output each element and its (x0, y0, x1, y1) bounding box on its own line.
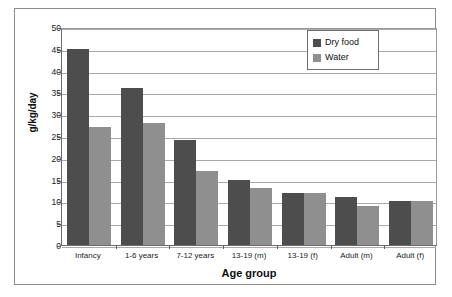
x-axis-tick-mark (223, 245, 224, 249)
bar-water (196, 171, 218, 245)
x-axis-tick-mark (331, 245, 332, 249)
bar-water (357, 206, 379, 245)
x-axis-tick-mark (277, 245, 278, 249)
bar-dry-food (389, 201, 411, 245)
y-axis-title: g/kg/day (27, 68, 38, 158)
x-axis-tick-label: 13-19 (m) (232, 252, 267, 260)
legend-label: Dry food (325, 38, 359, 47)
bar-dry-food (228, 180, 250, 245)
bar-dry-food (282, 193, 304, 245)
bar-group (116, 29, 170, 245)
bar-group (223, 29, 277, 245)
x-axis-tick-label: 1-6 years (125, 252, 158, 260)
x-axis-tick-label: Adult (f) (396, 252, 424, 260)
gridline (62, 247, 436, 248)
bar-dry-food (335, 197, 357, 245)
x-axis-tick-label: Adult (m) (340, 252, 372, 260)
x-axis-tick-labels: Infancy1-6 years7-12 years13-19 (m)13-19… (61, 252, 437, 266)
bar-water (89, 127, 111, 245)
bar-group (62, 29, 116, 245)
legend-swatch-dry (313, 39, 321, 47)
bar-water (411, 201, 433, 245)
y-axis-tick-mark (57, 246, 61, 247)
x-axis-tick-mark (169, 245, 170, 249)
x-axis-tick-mark (384, 245, 385, 249)
bar-water (304, 193, 326, 245)
legend-item: Dry food (313, 35, 373, 50)
bar-group (384, 29, 438, 245)
bar-water (250, 188, 272, 245)
x-axis-tick-label: 13-19 (f) (288, 252, 318, 260)
legend-label: Water (325, 53, 349, 62)
x-axis-title: Age group (61, 267, 437, 279)
bar-group (169, 29, 223, 245)
x-axis-tick-mark (116, 245, 117, 249)
bars-layer (62, 29, 436, 245)
x-axis-tick-label: 7-12 years (176, 252, 214, 260)
chart-legend: Dry foodWater (307, 30, 379, 70)
plot-area (61, 28, 437, 246)
bar-dry-food (174, 140, 196, 245)
bar-dry-food (121, 88, 143, 245)
bar-dry-food (67, 49, 89, 245)
chart-frame: 05101520253035404550 g/kg/day Infancy1-6… (14, 8, 436, 285)
x-axis-tick-label: Infancy (75, 252, 101, 260)
legend-swatch-water (313, 54, 321, 62)
legend-item: Water (313, 50, 373, 65)
bar-water (143, 123, 165, 245)
